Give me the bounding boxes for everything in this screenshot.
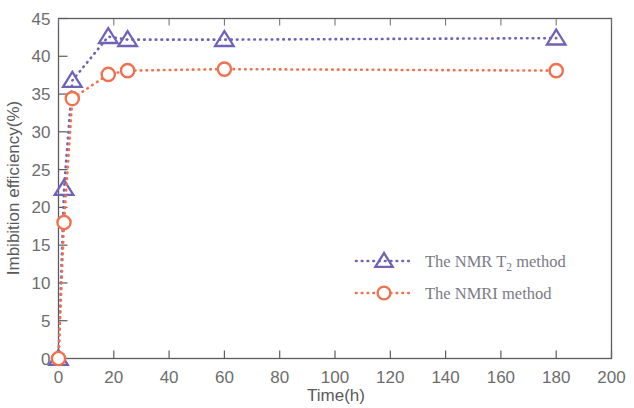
data-point-marker xyxy=(55,180,74,195)
x-tick-label: 20 xyxy=(104,368,123,387)
imbibition-efficiency-line-chart: 051015202530354045 020406080100120140160… xyxy=(0,0,634,408)
legend-entry-label: The NMRI method xyxy=(425,284,552,303)
legend-entry-label: The NMR T2 method xyxy=(425,252,566,273)
y-tick-label: 45 xyxy=(32,10,51,29)
data-point-marker xyxy=(218,63,231,76)
data-point-marker xyxy=(52,352,65,365)
x-tick-label: 100 xyxy=(321,368,349,387)
y-axis: 051015202530354045 xyxy=(32,10,68,369)
x-tick-label: 40 xyxy=(160,368,179,387)
series-line-1 xyxy=(59,37,557,359)
x-tick-label: 160 xyxy=(487,368,515,387)
x-tick-label: 180 xyxy=(542,368,570,387)
x-tick-label: 0 xyxy=(54,368,63,387)
legend: The NMR T2 methodThe NMRI method xyxy=(356,252,566,303)
x-tick-label: 80 xyxy=(270,368,289,387)
y-tick-label: 35 xyxy=(32,85,51,104)
y-tick-label: 15 xyxy=(32,236,51,255)
y-tick-label: 40 xyxy=(32,47,51,66)
x-axis-title: Time(h) xyxy=(307,386,365,405)
data-point-marker xyxy=(66,92,79,105)
y-tick-label: 20 xyxy=(32,198,51,217)
data-point-marker xyxy=(102,68,115,81)
data-point-marker xyxy=(550,64,563,77)
y-tick-label: 25 xyxy=(32,161,51,180)
data-point-marker xyxy=(121,64,134,77)
chart-figure: 051015202530354045 020406080100120140160… xyxy=(0,0,634,408)
x-tick-label: 60 xyxy=(215,368,234,387)
circle-marker xyxy=(378,287,391,300)
x-tick-label: 140 xyxy=(431,368,459,387)
x-tick-label: 200 xyxy=(597,368,625,387)
y-tick-label: 30 xyxy=(32,123,51,142)
data-series-group xyxy=(49,28,565,365)
x-axis: 020406080100120140160180200 xyxy=(54,19,626,387)
data-point-marker xyxy=(57,216,70,229)
series-line-2 xyxy=(59,69,557,358)
y-tick-label: 10 xyxy=(32,274,51,293)
x-tick-label: 120 xyxy=(376,368,404,387)
y-tick-label: 5 xyxy=(41,312,50,331)
y-axis-title: Imbibition efficiency(%) xyxy=(4,101,23,275)
data-point-marker xyxy=(99,28,118,43)
